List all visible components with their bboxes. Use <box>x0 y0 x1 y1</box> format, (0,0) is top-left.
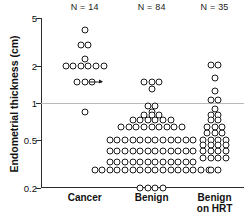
data-point <box>129 148 136 155</box>
data-point <box>148 78 155 85</box>
data-point <box>141 78 148 85</box>
data-point <box>129 167 136 174</box>
data-point <box>171 124 178 131</box>
data-point <box>81 78 88 85</box>
data-point <box>222 148 229 155</box>
data-point <box>156 124 163 131</box>
data-point <box>93 63 100 70</box>
plot-area: 5210.50.2 <box>41 18 244 188</box>
x-label-benign: Benign <box>117 193 187 204</box>
data-point <box>148 86 155 93</box>
data-point <box>156 78 163 85</box>
data-point <box>215 148 222 155</box>
x-label-cancer: Cancer <box>50 193 120 204</box>
data-point <box>190 136 197 143</box>
data-point <box>175 148 182 155</box>
data-point <box>129 158 136 165</box>
data-point <box>203 129 210 136</box>
count-label-benign-hrt: N = 35 <box>180 2 248 12</box>
data-point <box>215 155 222 162</box>
data-point <box>122 136 129 143</box>
data-point <box>167 158 174 165</box>
data-point <box>163 124 170 131</box>
data-point <box>152 158 159 165</box>
data-point <box>133 124 140 131</box>
data-point <box>152 185 159 192</box>
data-point <box>152 136 159 143</box>
data-point <box>215 62 222 69</box>
data-point <box>219 129 226 136</box>
data-point <box>114 167 121 174</box>
data-point <box>144 185 151 192</box>
data-point <box>106 158 113 165</box>
data-point <box>190 167 197 174</box>
data-point <box>137 136 144 143</box>
data-point <box>207 148 214 155</box>
data-point <box>144 148 151 155</box>
data-point <box>152 148 159 155</box>
data-point <box>160 185 167 192</box>
data-point <box>122 148 129 155</box>
data-point <box>81 108 88 115</box>
data-point <box>125 124 132 131</box>
data-point <box>167 136 174 143</box>
data-point <box>207 97 214 104</box>
data-point <box>211 75 218 82</box>
data-point <box>141 124 148 131</box>
data-point <box>144 167 151 174</box>
data-point <box>137 158 144 165</box>
data-point <box>167 167 174 174</box>
data-point <box>85 41 92 48</box>
y-tick-label: 2 <box>32 61 37 72</box>
data-point <box>182 158 189 165</box>
data-point <box>122 158 129 165</box>
data-point <box>106 167 113 174</box>
data-point <box>215 117 222 124</box>
data-point <box>179 124 186 131</box>
data-point <box>99 167 106 174</box>
reference-line-1cm <box>41 103 244 104</box>
data-point <box>144 117 151 124</box>
data-point <box>175 136 182 143</box>
data-point <box>160 158 167 165</box>
data-point <box>144 136 151 143</box>
data-point <box>77 63 84 70</box>
data-point <box>129 136 136 143</box>
data-point <box>144 158 151 165</box>
data-point <box>190 148 197 155</box>
data-point <box>215 97 222 104</box>
data-point <box>114 158 121 165</box>
data-point <box>167 148 174 155</box>
data-point <box>211 88 218 95</box>
data-point <box>182 148 189 155</box>
data-point <box>207 117 214 124</box>
data-point <box>122 167 129 174</box>
data-point <box>106 148 113 155</box>
y-axis-title: Endometrial thickness (cm) <box>8 24 20 184</box>
count-label-benign: N = 84 <box>117 2 187 12</box>
data-point <box>70 63 77 70</box>
y-tick-label: 0.5 <box>24 134 37 145</box>
data-point <box>81 26 88 33</box>
data-point <box>137 167 144 174</box>
y-tick-label: 1 <box>32 98 37 109</box>
data-point <box>175 158 182 165</box>
data-point <box>160 117 167 124</box>
y-tick-label: 5 <box>32 13 37 24</box>
data-point <box>207 62 214 69</box>
data-point <box>100 63 107 70</box>
data-point <box>77 41 84 48</box>
data-point <box>160 148 167 155</box>
y-tick-label: 0.2 <box>24 183 37 194</box>
data-point <box>200 155 207 162</box>
data-point <box>182 136 189 143</box>
data-point <box>160 136 167 143</box>
data-point <box>81 56 88 63</box>
data-point <box>137 148 144 155</box>
data-point <box>207 167 214 174</box>
data-point <box>129 117 136 124</box>
data-point <box>200 148 207 155</box>
data-point <box>114 136 121 143</box>
data-point <box>167 117 174 124</box>
x-label-benign-hrt: Benign on HRT <box>180 193 248 214</box>
